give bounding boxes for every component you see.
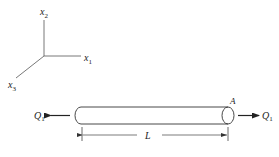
coordinate-axes: x2 x1 x3 [7,6,92,93]
length-label: L [144,130,151,141]
right-load-label: Q1 [262,110,273,123]
right-torque-load: Q1 [238,110,273,123]
end-label-a: A [229,96,236,106]
x3-axis [16,56,44,78]
x1-label: x1 [83,52,92,66]
length-dimension: L [82,127,228,141]
left-load-label: Q1 [34,110,45,123]
bar-outline [75,107,228,124]
x2-label: x2 [39,6,48,20]
shaft-diagram: x2 x1 x3 A Q1 Q1 L [0,0,279,157]
circular-bar: A [75,96,236,124]
x3-label: x3 [7,79,16,93]
left-torque-load: Q1 [34,110,70,123]
bar-end-face-a [222,107,234,124]
